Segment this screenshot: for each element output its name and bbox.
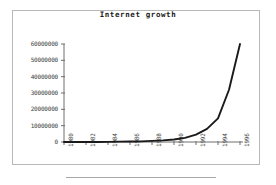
data-series-line [64,44,240,142]
chart-axes [64,44,243,142]
line-chart-plot [0,0,276,185]
bottom-divider-rule [66,177,216,178]
